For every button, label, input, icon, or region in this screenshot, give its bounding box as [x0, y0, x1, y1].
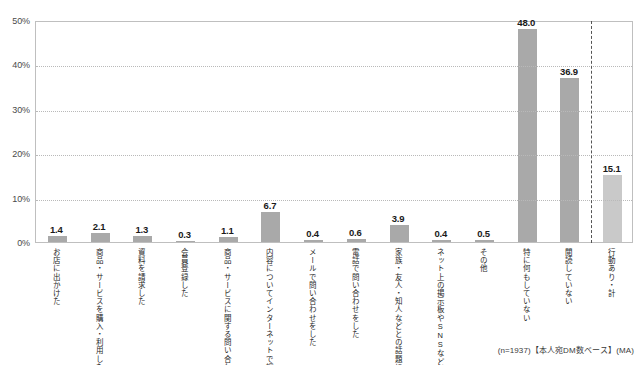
x-axis-category-label: 会員登録した — [180, 248, 189, 360]
y-axis-tick-label: 0% — [17, 239, 30, 248]
x-axis-category-label: 特に何もしていない — [521, 248, 530, 360]
x-axis-category-label: その他 — [479, 248, 488, 360]
bar-value-label: 0.3 — [165, 230, 205, 240]
bar — [560, 78, 579, 242]
bar-value-label: 36.9 — [549, 67, 589, 77]
bar-value-label: 15.1 — [592, 164, 632, 174]
bar-value-label: 48.0 — [506, 18, 546, 28]
bar-value-label: 1.4 — [36, 225, 76, 235]
bar — [261, 212, 280, 242]
bar — [133, 236, 152, 242]
bar — [48, 236, 67, 242]
x-axis-category-label: メールで問い合わせをした — [308, 248, 317, 360]
x-axis-category-label: 閲読していない — [564, 248, 573, 360]
bar-value-label: 1.1 — [207, 226, 247, 236]
y-axis-tick-label: 30% — [12, 106, 30, 115]
x-axis-category-label: ネット上の掲示板やSNSなどに書き込んだ（FacebookやTwitterなど） — [436, 248, 445, 360]
y-axis-tick-label: 20% — [12, 150, 30, 159]
bar — [518, 29, 537, 242]
bar — [603, 175, 622, 242]
bar-value-label: 0.4 — [421, 229, 461, 239]
bar — [219, 237, 238, 242]
gridline — [36, 111, 632, 112]
bar — [91, 233, 110, 242]
bar — [304, 240, 323, 242]
bar-value-label: 6.7 — [250, 201, 290, 211]
bar-value-label: 3.9 — [378, 214, 418, 224]
bar — [432, 240, 451, 242]
bar — [347, 239, 366, 242]
gridline — [36, 66, 632, 67]
bar — [390, 225, 409, 242]
x-axis-category-label: 商品・サービスを購入・利用した — [94, 248, 103, 360]
bar-chart: 0%10%20%30%40%50% (n=1937)【本人宛DM数ベース】(MA… — [0, 0, 642, 365]
gridline — [36, 155, 632, 156]
bar-value-label: 0.5 — [464, 229, 504, 239]
bar-value-label: 1.3 — [122, 225, 162, 235]
bars-layer — [36, 22, 632, 242]
x-axis-category-label: 商品・サービスに関する問い合わせをした — [222, 248, 231, 360]
x-axis-category-label: 内容についてインターネットで調べた — [265, 248, 274, 360]
bar-value-label: 0.4 — [293, 229, 333, 239]
x-axis-category-label: 家族・友人・知人などとの話題にした — [393, 248, 402, 360]
y-axis-tick-label: 10% — [12, 195, 30, 204]
bar — [475, 240, 494, 242]
plot-area — [35, 21, 633, 243]
x-axis-category-label: お店に出かけた — [51, 248, 60, 360]
x-axis-category-label: 資料を請求した — [137, 248, 146, 360]
y-axis-tick-label: 50% — [12, 17, 30, 26]
section-divider — [591, 21, 592, 243]
gridline — [36, 200, 632, 201]
bar — [176, 241, 195, 243]
bar-value-label: 2.1 — [79, 222, 119, 232]
x-axis-category-label: 行動あり・計 — [607, 248, 616, 360]
bar-value-label: 0.6 — [335, 228, 375, 238]
y-axis-tick-label: 40% — [12, 61, 30, 70]
y-axis: 0%10%20%30%40%50% — [0, 0, 33, 250]
x-axis-category-label: 電話で問い合わせをした — [350, 248, 359, 360]
